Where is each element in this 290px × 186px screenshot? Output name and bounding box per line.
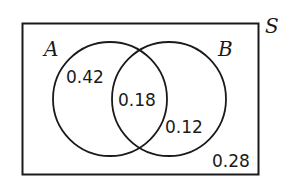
region-a-and-b-value: 0.18 <box>118 90 156 110</box>
set-b-label: B <box>217 37 233 61</box>
universal-set-label: S <box>265 14 279 38</box>
venn-diagram: S A B 0.42 0.18 0.12 0.28 <box>0 0 290 186</box>
region-b-only-value: 0.12 <box>165 117 203 137</box>
set-a-label: A <box>42 37 58 61</box>
region-outside-value: 0.28 <box>212 151 250 171</box>
region-a-only-value: 0.42 <box>66 67 104 87</box>
